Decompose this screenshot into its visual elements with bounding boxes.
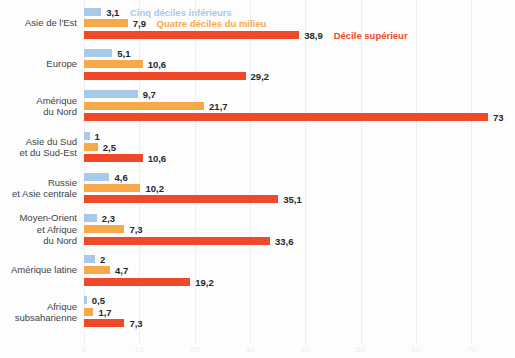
legend-item-top: Décile supérieur bbox=[334, 29, 408, 40]
bar-value-label: 35,1 bbox=[283, 194, 302, 205]
bar-row: 7,9Quatre déciles du milieu bbox=[84, 19, 488, 27]
bar-value-label: 19,2 bbox=[195, 276, 214, 287]
bar-row: 29,2 bbox=[84, 72, 488, 80]
bar-value-label: 73 bbox=[493, 111, 504, 122]
bar-value-label: 7,3 bbox=[129, 317, 142, 328]
bar-top[interactable] bbox=[84, 72, 246, 80]
bar-row: 33,6 bbox=[84, 237, 488, 245]
bar-value-label: 21,7 bbox=[209, 100, 228, 111]
bar-row: 4,6 bbox=[84, 173, 488, 181]
bar-row: 10,2 bbox=[84, 184, 488, 192]
bar-row: 2,3 bbox=[84, 214, 488, 222]
bar-top[interactable] bbox=[84, 154, 143, 162]
bar-mid[interactable] bbox=[84, 308, 93, 316]
bar-low[interactable] bbox=[84, 90, 138, 98]
bar-value-label: 4,6 bbox=[114, 171, 127, 182]
category-label: Amérique latine bbox=[0, 265, 77, 276]
category-label: Russie et Asie centrale bbox=[0, 177, 77, 199]
legend-item-mid: Quatre déciles du milieu bbox=[157, 18, 267, 29]
bar-value-label: 10,6 bbox=[148, 153, 167, 164]
x-axis-tick-label: 30 bbox=[245, 345, 255, 354]
bar-value-label: 10,2 bbox=[145, 183, 164, 194]
bar-row: 4,7 bbox=[84, 266, 488, 274]
bar-value-label: 2,5 bbox=[103, 141, 116, 152]
bar-value-label: 38,9 bbox=[304, 29, 323, 40]
bar-low[interactable] bbox=[84, 132, 90, 140]
bar-mid[interactable] bbox=[84, 184, 140, 192]
bar-group: Russie et Asie centrale4,610,235,1 bbox=[84, 173, 488, 204]
bar-value-label: 9,7 bbox=[143, 89, 156, 100]
bar-group: Afrique subsaharienne0,51,77,3 bbox=[84, 296, 488, 327]
bar-top[interactable] bbox=[84, 319, 124, 327]
bar-mid[interactable] bbox=[84, 19, 128, 27]
bar-row: 3,1Cinq déciles inférieurs bbox=[84, 8, 488, 16]
bar-chart: 010203040506070 Asie de l'Est3,1Cinq déc… bbox=[0, 0, 515, 358]
bar-value-label: 33,6 bbox=[275, 235, 294, 246]
bar-row: 38,9Décile supérieur bbox=[84, 31, 488, 39]
bar-row: 73 bbox=[84, 113, 488, 121]
bar-top[interactable] bbox=[84, 113, 488, 121]
bar-value-label: 1 bbox=[95, 130, 100, 141]
bar-top[interactable] bbox=[84, 31, 299, 39]
category-label: Europe bbox=[0, 59, 77, 70]
bar-group: Amérique du Nord9,721,773 bbox=[84, 90, 488, 121]
category-label: Asie du Sud et du Sud-Est bbox=[0, 136, 77, 158]
bar-row: 19,2 bbox=[84, 278, 488, 286]
bar-value-label: 2,3 bbox=[102, 213, 115, 224]
bar-value-label: 10,6 bbox=[148, 59, 167, 70]
bar-row: 1 bbox=[84, 132, 488, 140]
bar-low[interactable] bbox=[84, 8, 101, 16]
bar-row: 0,5 bbox=[84, 296, 488, 304]
bar-value-label: 2 bbox=[100, 254, 105, 265]
bar-value-label: 5,1 bbox=[117, 48, 130, 59]
bar-row: 10,6 bbox=[84, 154, 488, 162]
bar-row: 35,1 bbox=[84, 195, 488, 203]
x-axis-tick-label: 50 bbox=[356, 345, 366, 354]
x-axis-tick-label: 0 bbox=[82, 345, 87, 354]
bar-value-label: 7,3 bbox=[129, 224, 142, 235]
x-axis-tick-label: 40 bbox=[301, 345, 311, 354]
bar-group: Moyen-Orient et Afrique du Nord2,37,333,… bbox=[84, 214, 488, 245]
bar-row: 7,3 bbox=[84, 319, 488, 327]
bar-row: 2 bbox=[84, 255, 488, 263]
bar-group: Amérique latine24,719,2 bbox=[84, 255, 488, 286]
bar-mid[interactable] bbox=[84, 143, 98, 151]
bar-row: 10,6 bbox=[84, 60, 488, 68]
x-axis-tick-label: 60 bbox=[411, 345, 421, 354]
bar-low[interactable] bbox=[84, 255, 95, 263]
bar-low[interactable] bbox=[84, 49, 112, 57]
bar-low[interactable] bbox=[84, 173, 109, 181]
x-axis-tick-label: 70 bbox=[467, 345, 477, 354]
bar-value-label: 1,7 bbox=[98, 306, 111, 317]
x-axis-tick-label: 20 bbox=[190, 345, 200, 354]
bar-value-label: 3,1 bbox=[106, 7, 119, 18]
legend-item-low: Cinq déciles inférieurs bbox=[130, 7, 232, 18]
bar-row: 7,3 bbox=[84, 225, 488, 233]
bar-group: Asie du Sud et du Sud-Est12,510,6 bbox=[84, 132, 488, 163]
bar-row: 2,5 bbox=[84, 143, 488, 151]
bar-row: 21,7 bbox=[84, 102, 488, 110]
category-label: Amérique du Nord bbox=[0, 94, 77, 116]
bar-group: Asie de l'Est3,1Cinq déciles inférieurs7… bbox=[84, 8, 488, 39]
bar-top[interactable] bbox=[84, 195, 278, 203]
bar-mid[interactable] bbox=[84, 60, 143, 68]
category-label: Afrique subsaharienne bbox=[0, 300, 77, 322]
bar-value-label: 7,9 bbox=[133, 18, 146, 29]
bar-mid[interactable] bbox=[84, 225, 124, 233]
category-label: Moyen-Orient et Afrique du Nord bbox=[0, 212, 77, 246]
plot-area: 010203040506070 Asie de l'Est3,1Cinq déc… bbox=[84, 0, 488, 344]
bar-mid[interactable] bbox=[84, 266, 110, 274]
bar-low[interactable] bbox=[84, 214, 97, 222]
bar-top[interactable] bbox=[84, 278, 190, 286]
bar-low[interactable] bbox=[84, 296, 87, 304]
x-axis-tick-label: 10 bbox=[135, 345, 145, 354]
bar-row: 1,7 bbox=[84, 308, 488, 316]
bar-top[interactable] bbox=[84, 237, 270, 245]
bar-row: 5,1 bbox=[84, 49, 488, 57]
bar-mid[interactable] bbox=[84, 102, 204, 110]
bar-value-label: 0,5 bbox=[92, 295, 105, 306]
bar-value-label: 4,7 bbox=[115, 265, 128, 276]
category-label: Asie de l'Est bbox=[0, 18, 77, 29]
bar-row: 9,7 bbox=[84, 90, 488, 98]
bar-value-label: 29,2 bbox=[251, 70, 270, 81]
